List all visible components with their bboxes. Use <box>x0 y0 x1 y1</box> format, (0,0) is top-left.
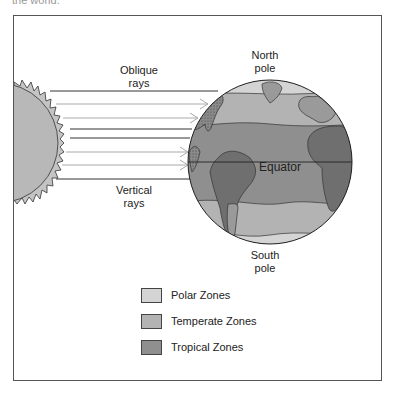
south-line1: South <box>235 249 295 262</box>
legend-item-temperate: Temperate Zones <box>141 313 257 329</box>
vertical-rays-label: Vertical rays <box>99 184 169 210</box>
north-line1: North <box>235 49 295 62</box>
sun-icon <box>0 80 64 204</box>
equator-label: Equator <box>250 161 310 174</box>
legend-item-tropical: Tropical Zones <box>141 339 257 355</box>
south-line2: pole <box>235 262 295 275</box>
vertical-line2: rays <box>99 197 169 210</box>
legend-label-temperate: Temperate Zones <box>171 315 257 327</box>
oblique-rays-label: Oblique rays <box>104 64 174 90</box>
legend-item-polar: Polar Zones <box>141 287 257 303</box>
vertical-line1: Vertical <box>99 184 169 197</box>
legend: Polar Zones Temperate Zones Tropical Zon… <box>141 287 257 365</box>
oblique-line1: Oblique <box>104 64 174 77</box>
tropical-swatch <box>141 340 162 355</box>
north-line2: pole <box>235 62 295 75</box>
polar-swatch <box>141 288 162 303</box>
north-pole-label: North pole <box>235 49 295 75</box>
legend-label-polar: Polar Zones <box>171 289 230 301</box>
oblique-line2: rays <box>104 77 174 90</box>
south-pole-label: South pole <box>235 249 295 275</box>
temperate-swatch <box>141 314 162 329</box>
legend-label-tropical: Tropical Zones <box>171 341 243 353</box>
